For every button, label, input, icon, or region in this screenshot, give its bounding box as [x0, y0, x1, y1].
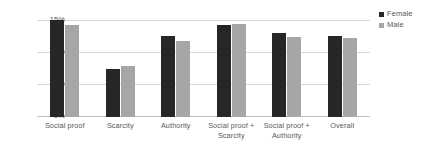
bar-female[interactable] — [272, 33, 286, 117]
bar-female[interactable] — [217, 25, 231, 117]
x-axis-label: Social proof — [37, 121, 93, 140]
legend: Female Male — [379, 10, 413, 29]
bar-female[interactable] — [106, 69, 120, 118]
legend-item-female[interactable]: Female — [379, 10, 413, 18]
bar-male[interactable] — [343, 38, 357, 117]
bar-female[interactable] — [161, 36, 175, 117]
bar-group — [148, 20, 204, 117]
bar-female[interactable] — [328, 36, 342, 117]
bar-male[interactable] — [65, 25, 79, 117]
x-axis-label: Social proof + Authority — [259, 121, 315, 140]
bar-group — [93, 20, 149, 117]
bar-male[interactable] — [287, 37, 301, 117]
bar-group — [204, 20, 260, 117]
legend-label-male: Male — [387, 21, 404, 29]
x-axis-labels: Social proofScarcityAuthoritySocial proo… — [37, 121, 370, 140]
bar-male[interactable] — [232, 24, 246, 117]
bar-group — [315, 20, 371, 117]
legend-swatch-female-icon — [379, 12, 384, 17]
x-axis-label: Scarcity — [93, 121, 149, 140]
bar-group — [259, 20, 315, 117]
x-axis-label: Social proof + Scarcity — [204, 121, 260, 140]
x-axis-label: Authority — [148, 121, 204, 140]
bar-chart: 15% 10% 5% 0% Social proofScarcityAuthor… — [0, 0, 439, 154]
bars-layer — [37, 20, 370, 117]
legend-swatch-male-icon — [379, 23, 384, 28]
bar-female[interactable] — [50, 20, 64, 117]
legend-item-male[interactable]: Male — [379, 21, 413, 29]
x-axis-label: Overall — [315, 121, 371, 140]
legend-label-female: Female — [387, 10, 413, 18]
bar-male[interactable] — [121, 66, 135, 117]
bar-male[interactable] — [176, 41, 190, 117]
bar-group — [37, 20, 93, 117]
